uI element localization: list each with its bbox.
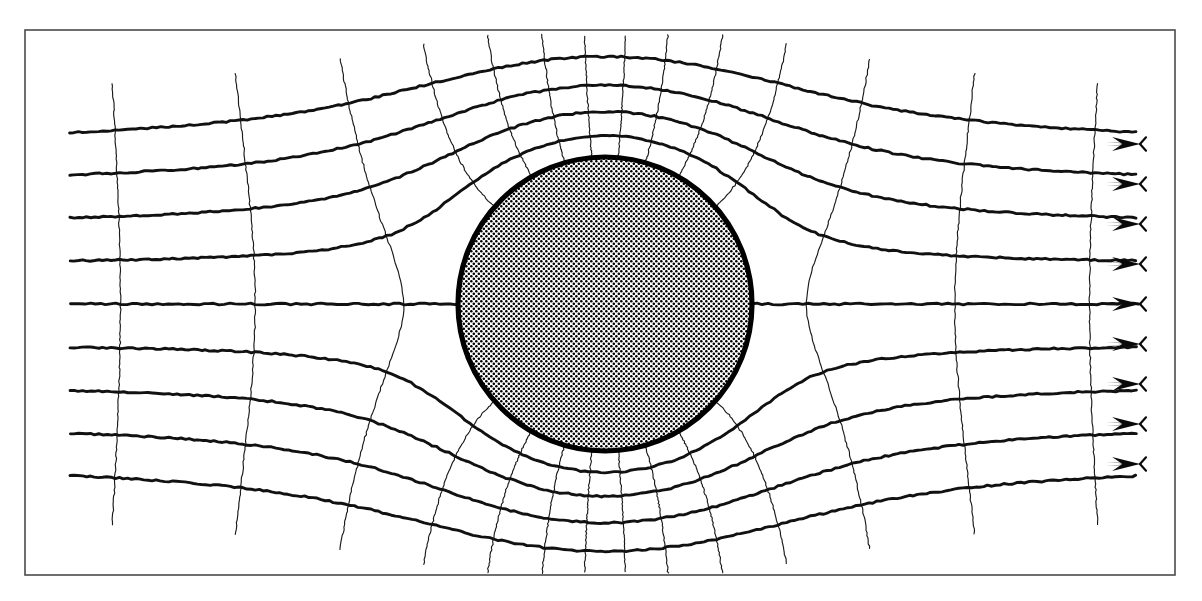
figure-root (0, 0, 1202, 601)
dividing-streamline-downstream (752, 303, 1139, 305)
flow-net-canvas (0, 0, 1202, 601)
cylinder-disc (458, 157, 752, 451)
dividing-streamline-upstream (71, 303, 458, 305)
cylinder-group (458, 157, 752, 451)
